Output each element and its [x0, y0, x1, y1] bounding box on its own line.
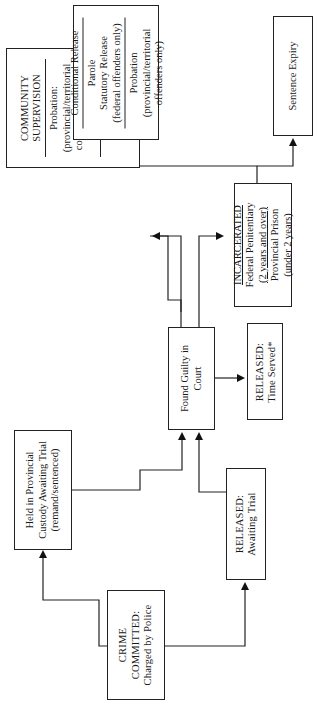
- crime-line-2: COMMITTED:: [130, 611, 142, 680]
- incarcerated-s2-1: Provincial Prison: [269, 209, 281, 282]
- incarcerated-s1-2: (2 years and over): [257, 207, 269, 283]
- held-line-1: Held in Provincial: [24, 452, 36, 529]
- node-conditional-release: Conditional Release Parole Statutory Rel…: [73, 5, 159, 140]
- incarcerated-s1-1: Federal Penitentiary: [244, 203, 256, 288]
- expiry-line-1: Sentence Expiry: [287, 41, 299, 110]
- community-title-1: COMMUNITY: [19, 75, 31, 141]
- divider: [82, 17, 83, 128]
- served-line-2: Time Served*: [265, 341, 277, 402]
- conditional-s2-1: Probation: [127, 52, 139, 93]
- conditional-s1-3: (federal offenders only): [110, 23, 122, 123]
- node-found-guilty: Found Guilty in Court: [168, 327, 215, 430]
- released-trial-line-2: Awaiting Trial: [246, 492, 258, 555]
- node-incarcerated: INCARCERATED Federal Penitentiary (2 yea…: [234, 183, 292, 307]
- incarcerated-s2-2: (under 2 years): [282, 213, 294, 277]
- conditional-s2-3: offenders only): [152, 40, 164, 104]
- node-released-time-served: RELEASED: Time Served*: [247, 323, 283, 420]
- community-s1-1: Probation:: [48, 86, 60, 130]
- conditional-s1-1: Parole: [85, 59, 97, 86]
- incarcerated-title: INCARCERATED: [232, 205, 244, 285]
- crime-line-3: Charged by Police: [142, 605, 154, 686]
- node-held-in-custody: Held in Provincial Custody Awaiting Tria…: [14, 430, 72, 550]
- community-title-2: SUPERVISION: [31, 74, 43, 141]
- crime-line-1: CRIME: [117, 628, 129, 662]
- divider: [45, 59, 46, 157]
- served-line-1: RELEASED:: [253, 342, 265, 400]
- held-line-3: (remand/sentenced): [49, 449, 61, 532]
- node-sentence-expiry: Sentence Expiry: [273, 16, 313, 136]
- released-trial-line-1: RELEASED:: [234, 495, 246, 553]
- node-released-awaiting-trial: RELEASED: Awaiting Trial: [226, 468, 266, 580]
- guilty-line-1: Found Guilty in: [179, 345, 191, 412]
- guilty-line-2: Court: [192, 367, 204, 391]
- conditional-title: Conditional Release: [68, 30, 80, 115]
- conditional-s1-2: Statutory Release: [97, 36, 109, 110]
- node-crime-committed: CRIME COMMITTED: Charged by Police: [107, 590, 165, 700]
- divider: [124, 17, 125, 128]
- held-line-2: Custody Awaiting Trial: [37, 441, 49, 539]
- conditional-s2-2: (provincial/territorial: [140, 28, 152, 117]
